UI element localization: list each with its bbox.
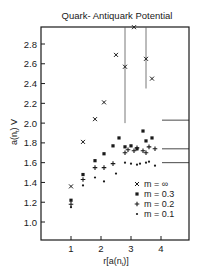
cross-marker: [102, 100, 106, 104]
y-tick-label: 1.4: [24, 177, 37, 188]
plus-marker: [81, 177, 86, 182]
y-tick-label: 1.0: [24, 217, 37, 228]
y-axis-ticks: 1.01.21.41.61.82.02.22.42.62.8: [24, 39, 45, 228]
square-marker: [81, 173, 84, 176]
dot-marker: [94, 176, 96, 178]
plus-marker: [111, 161, 116, 166]
plus-marker: [147, 145, 152, 150]
legend-item-label: m = 0.3: [144, 189, 174, 199]
x-axis-label-end: )]: [123, 256, 129, 266]
x-axis-label: r[a(nt)]: [103, 256, 129, 267]
y-axis-label: a(nt) V: [9, 119, 20, 145]
svg-text:a(nt) V: a(nt) V: [9, 119, 20, 145]
square-marker: [93, 159, 96, 162]
square-marker: [129, 144, 132, 147]
dot-marker: [154, 165, 156, 167]
legend-item-label: m = 0.2: [144, 199, 174, 209]
y-tick-label: 2.0: [24, 118, 37, 129]
x-axis-label-main: r[a(n: [103, 256, 122, 266]
x-tick-label: 1: [68, 243, 73, 254]
dot-marker: [136, 164, 138, 166]
y-tick-label: 1.8: [24, 137, 37, 148]
y-tick-label: 2.2: [24, 98, 37, 109]
square-marker: [69, 199, 72, 202]
plus-marker: [153, 147, 158, 152]
x-tick-label: 3: [128, 243, 133, 254]
y-tick-label: 2.8: [24, 39, 37, 50]
x-tick-label: 4: [158, 243, 163, 254]
dot-marker: [148, 161, 150, 163]
square-marker: [144, 139, 147, 142]
dot-marker: [124, 162, 126, 164]
dot-marker: [103, 180, 105, 182]
x-tick-label: 2: [98, 243, 103, 254]
plus-marker: [135, 146, 140, 151]
y-axis-label-main: a(n: [9, 132, 19, 145]
plus-marker: [102, 165, 107, 170]
cross-marker: [81, 140, 85, 144]
square-marker: [150, 136, 153, 139]
x-axis-ticks: 1234: [68, 236, 163, 254]
dot-marker: [145, 162, 147, 164]
y-tick-label: 1.2: [24, 197, 37, 208]
dot-marker: [115, 172, 117, 174]
chart-svg: Quark- Antiquark Potential 1.01.21.41.61…: [0, 0, 203, 279]
asymptote-lines: [162, 120, 189, 163]
square-marker: [117, 136, 120, 139]
cross-marker: [93, 117, 97, 121]
y-tick-label: 1.6: [24, 157, 37, 168]
plus-marker: [135, 202, 140, 207]
y-axis-label-end: ) V: [9, 119, 19, 131]
plus-marker: [123, 150, 128, 155]
legend-item-label: m = ∞: [144, 179, 168, 189]
cross-marker: [69, 184, 73, 188]
cross-marker: [135, 182, 139, 186]
square-marker: [141, 129, 144, 132]
square-marker: [102, 152, 105, 155]
square-marker: [123, 145, 126, 148]
square-marker: [135, 192, 138, 195]
dot-marker: [70, 206, 72, 208]
y-tick-label: 2.4: [24, 78, 37, 89]
dot-marker: [130, 163, 132, 165]
plus-marker: [69, 202, 74, 207]
y-tick-label: 2.6: [24, 58, 37, 69]
plus-marker: [93, 165, 98, 170]
cross-marker: [114, 53, 118, 57]
legend-item-label: m = 0.1: [144, 209, 174, 219]
legend: m = ∞m = 0.3m = 0.2m = 0.1: [135, 179, 175, 219]
dot-marker: [139, 163, 141, 165]
chart-title: Quark- Antiquark Potential: [62, 10, 173, 21]
dot-marker: [136, 213, 138, 215]
error-bars: [125, 27, 146, 123]
dot-marker: [82, 184, 84, 186]
cross-marker: [150, 77, 154, 81]
square-marker: [111, 144, 114, 147]
